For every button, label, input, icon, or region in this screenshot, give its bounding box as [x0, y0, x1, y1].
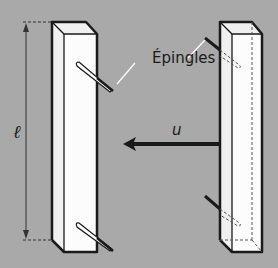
velocity-label: u — [172, 121, 182, 139]
length-dimension — [23, 22, 52, 240]
pins-label: Épingles — [152, 49, 215, 67]
right-bar — [220, 22, 262, 252]
left-bar — [52, 22, 97, 252]
diagram-canvas — [0, 0, 278, 268]
length-label: ℓ — [13, 121, 21, 143]
velocity-arrow — [123, 137, 219, 151]
